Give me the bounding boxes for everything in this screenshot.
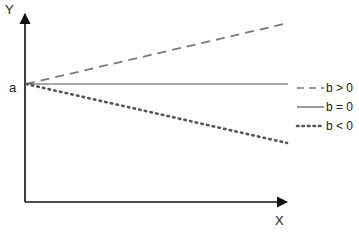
line-b-negative xyxy=(26,84,287,143)
legend-label-b-negative: b < 0 xyxy=(326,120,353,132)
y-axis-label: Y xyxy=(5,3,14,16)
regression-diagram xyxy=(0,0,359,234)
x-axis-label: X xyxy=(275,214,284,227)
line-b-positive xyxy=(26,23,288,84)
legend-label-b-zero: b = 0 xyxy=(326,101,353,113)
intercept-label: a xyxy=(9,81,16,94)
legend-label-b-positive: b > 0 xyxy=(326,82,353,94)
